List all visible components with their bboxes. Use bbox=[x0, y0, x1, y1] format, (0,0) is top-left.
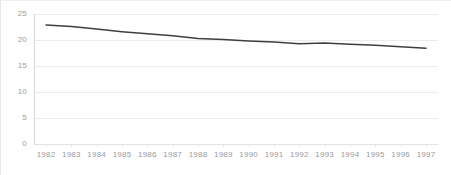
x-tick-label: 1996 bbox=[391, 150, 410, 160]
x-tick-label: 1992 bbox=[290, 150, 309, 160]
x-tick-label: 1988 bbox=[189, 150, 208, 160]
x-tickmark bbox=[375, 144, 376, 147]
x-tick-label: 1982 bbox=[37, 150, 56, 160]
series-layer bbox=[1, 1, 451, 175]
x-tickmark bbox=[46, 144, 47, 147]
x-tick-label: 1987 bbox=[163, 150, 182, 160]
x-tickmark bbox=[350, 144, 351, 147]
x-tickmark bbox=[249, 144, 250, 147]
x-tickmark bbox=[223, 144, 224, 147]
x-tick-label: 1985 bbox=[113, 150, 132, 160]
x-tickmark bbox=[71, 144, 72, 147]
x-tickmark bbox=[97, 144, 98, 147]
x-tick-label: 1986 bbox=[138, 150, 157, 160]
data-series-line bbox=[46, 25, 426, 48]
x-tick-label: 1993 bbox=[315, 150, 334, 160]
x-tick-label: 1994 bbox=[341, 150, 360, 160]
x-tickmark bbox=[147, 144, 148, 147]
x-tick-label: 1990 bbox=[239, 150, 258, 160]
x-tick-label: 1991 bbox=[265, 150, 284, 160]
x-tick-label: 1989 bbox=[214, 150, 233, 160]
x-tickmark bbox=[325, 144, 326, 147]
x-tick-label: 1983 bbox=[62, 150, 81, 160]
x-tick-label: 1995 bbox=[366, 150, 385, 160]
x-tickmark bbox=[426, 144, 427, 147]
line-chart: 0510152025 19821983198419851986198719881… bbox=[0, 0, 451, 175]
x-tick-label: 1997 bbox=[417, 150, 436, 160]
x-tickmark bbox=[122, 144, 123, 147]
x-tickmark bbox=[401, 144, 402, 147]
x-tickmark bbox=[198, 144, 199, 147]
x-tickmark bbox=[299, 144, 300, 147]
x-tick-label: 1984 bbox=[87, 150, 106, 160]
x-tickmark bbox=[274, 144, 275, 147]
x-tickmark bbox=[173, 144, 174, 147]
x-axis-labels: 1982198319841985198619871988198919901991… bbox=[34, 150, 438, 164]
